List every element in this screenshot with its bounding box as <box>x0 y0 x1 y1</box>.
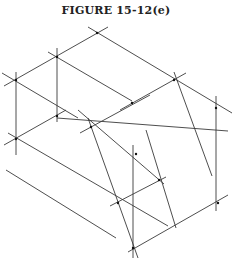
vertex-point <box>158 179 160 181</box>
vertex-point <box>131 102 133 104</box>
construction-line <box>88 118 138 258</box>
vertex-point <box>56 115 58 117</box>
isometric-block-diagram <box>0 0 232 262</box>
vertex-point <box>117 202 119 204</box>
construction-line <box>174 72 212 176</box>
vertex-point <box>135 153 137 155</box>
vertex-point <box>132 247 134 249</box>
construction-line <box>88 27 232 113</box>
construction-line <box>2 73 78 118</box>
construction-line <box>128 195 228 252</box>
vertex-point <box>90 126 92 128</box>
vertex-point <box>217 202 219 204</box>
construction-line <box>8 133 168 226</box>
construction-line <box>48 52 132 101</box>
vertex-point <box>215 107 217 109</box>
construction-lines <box>2 27 232 258</box>
intersection-points <box>15 32 219 249</box>
vertex-point <box>173 79 175 81</box>
construction-line <box>110 177 166 206</box>
vertex-point <box>56 56 58 58</box>
vertex-point <box>15 138 17 140</box>
vertex-point <box>15 79 17 81</box>
construction-line <box>57 118 228 131</box>
vertex-point <box>96 32 98 34</box>
construction-line <box>146 130 176 228</box>
construction-line <box>6 170 116 238</box>
